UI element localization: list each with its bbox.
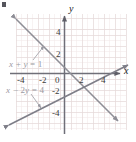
eq1-var-y: y bbox=[23, 59, 27, 69]
eq2-var-x: x bbox=[6, 85, 10, 95]
x-tick-neg4: -4 bbox=[17, 76, 25, 85]
eq2-operator: − bbox=[13, 85, 18, 95]
x-tick-neg2: -2 bbox=[39, 76, 47, 85]
x-tick-2: 2 bbox=[79, 76, 84, 85]
equation-label-2: x − 2y = 4 bbox=[6, 86, 44, 95]
equation-label-1: x + y = 1 bbox=[9, 60, 42, 69]
y-axis-label: y bbox=[69, 4, 73, 14]
eq1-operator: + bbox=[16, 59, 21, 69]
line-x-plus-y-equals-1 bbox=[16, 19, 118, 121]
coordinate-plane bbox=[0, 0, 136, 142]
eq1-equals: = bbox=[30, 59, 35, 69]
eq1-var-x: x bbox=[9, 59, 13, 69]
eq2-var-y: y bbox=[25, 85, 29, 95]
x-axis-label: x bbox=[124, 66, 128, 76]
graph-figure: x y -4 -2 0 2 4 4 2 -2 -4 x + y = 1 x − … bbox=[0, 0, 136, 142]
y-tick-2: 2 bbox=[56, 50, 61, 59]
x-tick-4: 4 bbox=[101, 76, 106, 85]
y-tick-neg4: -4 bbox=[52, 109, 60, 118]
y-tick-neg2: -2 bbox=[52, 87, 60, 96]
y-tick-4: 4 bbox=[56, 28, 61, 37]
eq2-rhs: 4 bbox=[39, 85, 44, 95]
eq1-rhs: 1 bbox=[38, 59, 43, 69]
eq2-equals: = bbox=[32, 85, 37, 95]
origin-label: 0 bbox=[55, 76, 60, 85]
